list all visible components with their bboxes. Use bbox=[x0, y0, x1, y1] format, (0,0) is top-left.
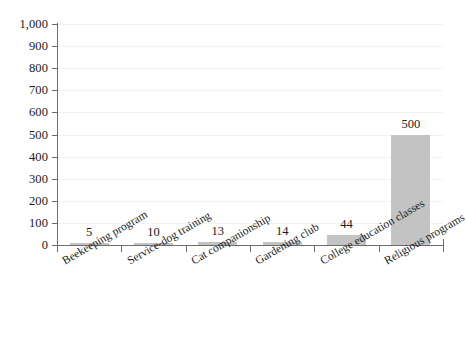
y-axis-tick-label: 1,000 bbox=[0, 18, 48, 31]
y-axis-tick bbox=[52, 201, 57, 202]
gridline bbox=[57, 46, 443, 47]
gridline bbox=[57, 201, 443, 202]
y-axis-tick-label: 400 bbox=[0, 151, 48, 164]
gridline bbox=[57, 112, 443, 113]
x-axis-tick bbox=[379, 246, 380, 252]
y-axis-tick bbox=[52, 223, 57, 224]
x-axis-tick bbox=[443, 246, 444, 252]
y-axis-line bbox=[57, 23, 58, 246]
y-axis-tick bbox=[52, 90, 57, 91]
y-axis-tick bbox=[52, 157, 57, 158]
x-axis-tick bbox=[121, 246, 122, 252]
y-axis-tick-label: 100 bbox=[0, 217, 48, 230]
y-axis-tick-label: 700 bbox=[0, 84, 48, 97]
bar-value-label: 500 bbox=[381, 118, 441, 131]
gridline bbox=[57, 179, 443, 180]
y-axis-tick-label: 800 bbox=[0, 62, 48, 75]
x-axis-tick bbox=[186, 246, 187, 252]
x-axis-tick bbox=[57, 246, 58, 252]
gridline bbox=[57, 90, 443, 91]
y-axis-tick bbox=[52, 68, 57, 69]
plot-area bbox=[57, 24, 443, 245]
gridline bbox=[57, 68, 443, 69]
x-axis-tick bbox=[250, 246, 251, 252]
y-axis-tick bbox=[52, 112, 57, 113]
y-axis-tick-label: 900 bbox=[0, 40, 48, 53]
x-axis-end-cap bbox=[443, 239, 444, 246]
gridline bbox=[57, 157, 443, 158]
gridline bbox=[57, 24, 443, 25]
y-axis-tick-label: 200 bbox=[0, 195, 48, 208]
bar bbox=[391, 135, 430, 246]
y-axis-tick bbox=[52, 135, 57, 136]
y-axis-tick bbox=[52, 179, 57, 180]
y-axis-tick-label: 600 bbox=[0, 106, 48, 119]
y-axis-tick-label: 300 bbox=[0, 173, 48, 186]
y-axis-tick bbox=[52, 46, 57, 47]
y-axis-tick-label: 500 bbox=[0, 129, 48, 142]
gridline bbox=[57, 135, 443, 136]
x-axis-tick bbox=[314, 246, 315, 252]
y-axis-tick bbox=[52, 24, 57, 25]
y-axis-tick-label: 0 bbox=[0, 239, 48, 252]
